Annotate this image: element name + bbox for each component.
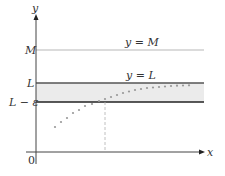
y-axis-label: y xyxy=(31,2,39,15)
l-axis-label: L xyxy=(26,77,34,90)
y-equals-m-label: y = M xyxy=(124,36,159,49)
x-axis-arrow-icon xyxy=(199,150,205,155)
l-minus-epsilon-axis-label: L − ε xyxy=(8,96,39,109)
origin-label: 0 xyxy=(28,154,35,167)
y-equals-l-label: y = L xyxy=(125,69,156,82)
x-axis-label: x xyxy=(207,146,214,159)
m-axis-label: M xyxy=(24,44,37,57)
limit-diagram: y x 0 M L L − ε y = M y = L xyxy=(0,0,225,176)
epsilon-band xyxy=(36,83,204,102)
